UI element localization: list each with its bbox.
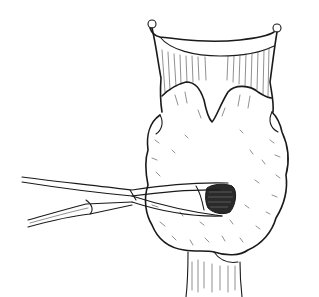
medical-illustration xyxy=(0,0,319,297)
thyroid-upper-lobes xyxy=(162,82,272,122)
trachea xyxy=(186,252,242,297)
forceps xyxy=(22,177,228,227)
thyroid-cartilage xyxy=(148,20,281,112)
thyroid-surgery-drawing xyxy=(0,0,319,297)
dissected-nodule xyxy=(196,184,236,213)
